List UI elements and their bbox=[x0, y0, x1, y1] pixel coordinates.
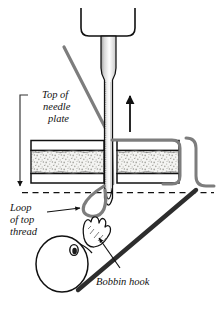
label-needle-plate-line3: plate bbox=[47, 113, 69, 124]
quilt-left-panel bbox=[31, 141, 104, 184]
quilt-backing-right bbox=[117, 174, 179, 184]
needle-clamp bbox=[81, 8, 135, 36]
label-loop-line1: Loop bbox=[9, 202, 32, 213]
label-needle-plate-line2: needle bbox=[43, 101, 71, 112]
quilt-top-fabric-right bbox=[117, 141, 179, 151]
quilt-top-fabric-left bbox=[31, 141, 104, 151]
figure-root: Top of needle plate Loop of top thread B… bbox=[0, 0, 216, 310]
label-bobbin-hook-line1: Bobbin hook bbox=[96, 276, 150, 287]
sewing-diagram-svg: Top of needle plate Loop of top thread B… bbox=[0, 0, 216, 310]
quilt-batting-left bbox=[31, 151, 104, 174]
label-bobbin-hook: Bobbin hook bbox=[96, 276, 150, 287]
label-needle-plate-line1: Top of bbox=[42, 89, 70, 100]
label-loop-line2: of top bbox=[10, 214, 34, 225]
quilt-batting-right bbox=[117, 151, 179, 174]
quilt-backing-left bbox=[31, 174, 104, 184]
quilt-right-panel bbox=[117, 141, 179, 184]
label-loop-line3: thread bbox=[10, 226, 38, 237]
